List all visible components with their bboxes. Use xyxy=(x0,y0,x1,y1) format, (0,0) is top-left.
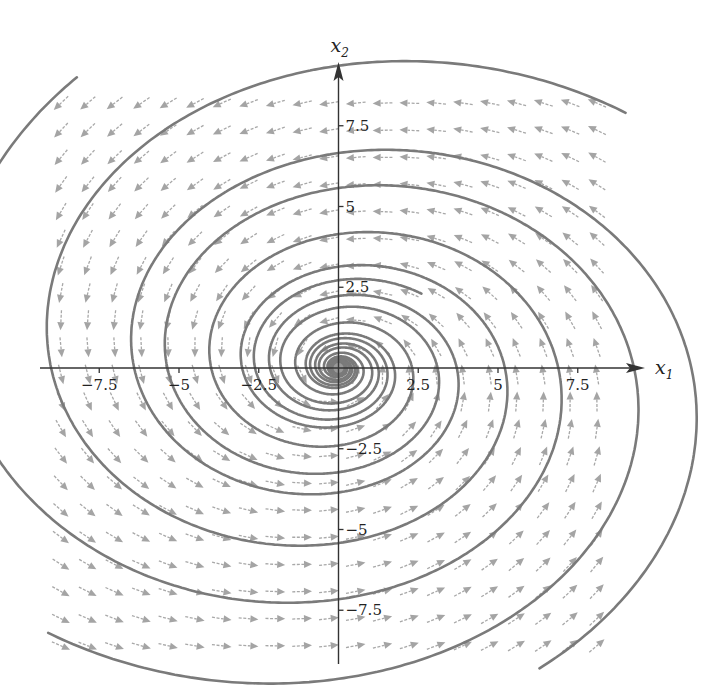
field-arrow xyxy=(266,100,285,107)
field-arrow xyxy=(292,588,312,595)
trajectory-curve-inner xyxy=(254,279,422,420)
arrowhead-icon xyxy=(568,502,575,511)
field-arrow xyxy=(480,181,499,188)
field-arrow xyxy=(483,475,496,490)
arrowhead-icon xyxy=(454,208,463,215)
field-arrow xyxy=(162,231,175,246)
field-arrow xyxy=(239,100,258,108)
field-arrow xyxy=(592,311,601,329)
arrowhead-icon xyxy=(304,534,312,541)
arrowhead-icon xyxy=(196,535,205,542)
field-arrow xyxy=(160,151,176,163)
arrowhead-icon xyxy=(293,182,302,189)
field-arrow xyxy=(562,612,577,625)
field-arrow xyxy=(161,449,176,462)
field-arrow xyxy=(107,151,121,165)
arrowhead-icon xyxy=(460,392,467,401)
arrowhead-icon xyxy=(84,267,91,276)
field-arrow xyxy=(540,392,547,412)
arrowhead-icon xyxy=(426,181,435,188)
arrowhead-icon xyxy=(543,640,552,647)
arrowhead-icon xyxy=(267,264,276,271)
field-arrow xyxy=(110,393,118,411)
field-arrow xyxy=(132,616,151,623)
arrowhead-icon xyxy=(426,154,434,161)
field-arrow xyxy=(508,586,524,598)
field-arrow xyxy=(239,561,259,568)
field-arrow xyxy=(239,507,258,514)
field-arrow xyxy=(426,208,445,215)
field-arrow xyxy=(509,558,524,571)
arrowhead-icon xyxy=(222,454,231,461)
arrowhead-icon xyxy=(489,586,498,593)
arrowhead-icon xyxy=(480,126,489,133)
arrowhead-icon xyxy=(453,99,461,106)
arrowhead-icon xyxy=(196,616,205,623)
field-arrow xyxy=(292,534,312,541)
arrowhead-icon xyxy=(346,154,354,161)
arrowhead-icon xyxy=(535,207,544,214)
field-arrow xyxy=(458,338,467,356)
field-arrow xyxy=(105,588,123,596)
arrowhead-icon xyxy=(214,210,223,218)
arrowhead-icon xyxy=(399,127,407,134)
field-arrow xyxy=(591,557,604,572)
arrowhead-icon xyxy=(84,349,91,357)
field-arrow xyxy=(239,127,257,135)
arrowhead-icon xyxy=(594,446,601,455)
arrowhead-icon xyxy=(426,99,434,106)
field-arrow xyxy=(562,206,578,217)
field-arrow xyxy=(454,587,471,596)
field-arrow xyxy=(535,613,551,625)
x-tick-label: −5 xyxy=(168,376,190,394)
field-arrow xyxy=(513,392,520,412)
field-arrow xyxy=(79,587,97,596)
field-arrow xyxy=(80,504,96,516)
field-arrow xyxy=(136,231,147,247)
arrowhead-icon xyxy=(223,642,231,649)
field-arrow xyxy=(159,533,177,541)
arrowhead-icon xyxy=(187,183,196,191)
arrowhead-icon xyxy=(428,288,437,295)
arrowhead-icon xyxy=(60,536,69,544)
arrowhead-icon xyxy=(511,312,518,321)
field-arrow xyxy=(426,126,446,133)
field-arrow xyxy=(507,99,526,106)
field-arrow xyxy=(508,234,525,245)
field-arrow xyxy=(265,588,285,595)
arrowhead-icon xyxy=(489,559,498,567)
field-arrow xyxy=(507,153,526,160)
field-arrow xyxy=(159,589,178,596)
arrowhead-icon xyxy=(250,588,258,595)
field-arrow xyxy=(160,477,176,488)
field-arrow xyxy=(55,176,67,192)
arrowhead-icon xyxy=(304,507,312,514)
arrowhead-icon xyxy=(564,285,572,294)
field-arrow xyxy=(534,99,553,106)
field-arrow xyxy=(82,177,94,193)
field-arrow xyxy=(565,312,575,329)
arrowhead-icon xyxy=(331,479,339,486)
x-tick-label: 5 xyxy=(493,376,503,394)
field-arrow xyxy=(218,311,226,330)
field-arrow xyxy=(187,152,204,163)
field-arrow xyxy=(134,178,148,192)
field-arrow xyxy=(106,532,123,542)
arrowhead-icon xyxy=(567,446,574,455)
arrowhead-icon xyxy=(463,559,472,566)
field-arrow xyxy=(319,100,339,107)
arrowhead-icon xyxy=(169,589,178,596)
arrowhead-icon xyxy=(304,642,312,649)
field-arrow xyxy=(400,642,419,649)
arrowhead-icon xyxy=(266,100,275,107)
arrowhead-icon xyxy=(513,392,520,400)
field-arrow xyxy=(292,561,312,568)
field-arrow xyxy=(239,588,259,595)
arrowhead-icon xyxy=(277,615,285,622)
field-arrow xyxy=(108,177,121,192)
trajectory-curve-upper-left xyxy=(0,77,562,602)
arrowhead-icon xyxy=(277,588,285,595)
field-arrow xyxy=(454,559,471,569)
arrowhead-icon xyxy=(223,615,231,622)
field-arrow xyxy=(239,153,257,161)
